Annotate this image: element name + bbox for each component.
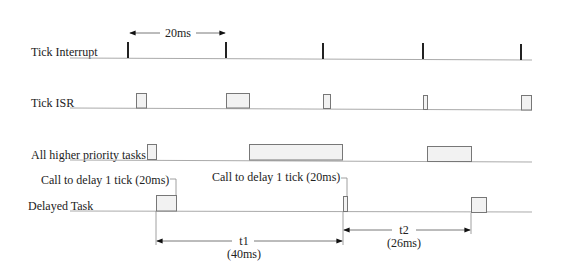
axis-delayed-task (70, 211, 532, 212)
isr-execution-box (522, 96, 532, 111)
isr-execution-box (324, 95, 331, 109)
delayed-task-box (472, 198, 487, 213)
period-label: 20ms (165, 26, 191, 40)
t1-label: t1 (239, 234, 248, 248)
callout-leader-2 (341, 178, 347, 196)
callout-leader-1 (170, 179, 176, 195)
t1-value: (40ms) (227, 247, 261, 261)
delayed-task-box (157, 196, 177, 212)
isr-execution-box (227, 94, 250, 109)
t2-label: t2 (399, 223, 408, 237)
timing-diagram: Tick Interrupt Tick ISR All higher prior… (0, 0, 561, 273)
isr-execution-box (424, 96, 428, 110)
delayed-task-box (344, 197, 348, 212)
callout-delay-call-1: Call to delay 1 tick (20ms) (41, 173, 169, 187)
higher-priority-box (148, 145, 157, 160)
higher-priority-box (428, 147, 472, 162)
axis-tick-interrupt (70, 58, 532, 60)
t2-value: (26ms) (387, 236, 421, 250)
row-label-tick-interrupt: Tick Interrupt (31, 45, 98, 59)
callout-delay-call-2: Call to delay 1 tick (20ms) (212, 170, 340, 184)
higher-priority-box (250, 145, 343, 161)
row-label-tick-isr: Tick ISR (31, 96, 74, 110)
isr-execution-box (137, 94, 147, 109)
